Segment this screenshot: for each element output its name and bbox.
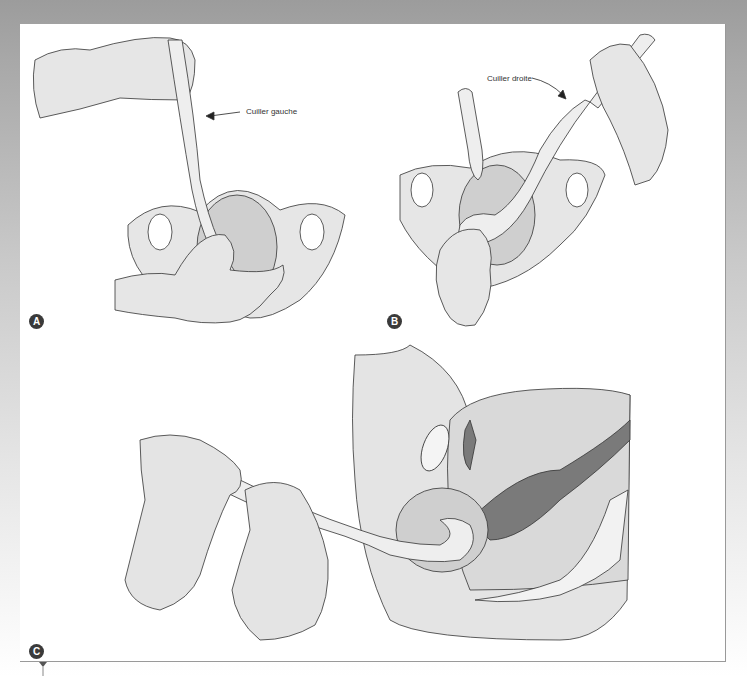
panel-c-illustration xyxy=(125,345,630,640)
panel-label-a: A xyxy=(29,314,44,329)
pin-marker-icon xyxy=(39,662,47,676)
caption-cuiller-gauche: Cuiller gauche xyxy=(246,107,297,116)
illustration-canvas xyxy=(20,24,726,662)
panel-b-illustration xyxy=(400,34,668,326)
panel-a-illustration xyxy=(33,38,345,323)
caption-cuiller-droite: Cuiller droite xyxy=(487,74,532,83)
figure-panel: Cuiller gauche Cuiller droite A B C xyxy=(20,24,726,662)
panel-label-b: B xyxy=(387,314,402,329)
panel-label-c: C xyxy=(29,644,44,659)
